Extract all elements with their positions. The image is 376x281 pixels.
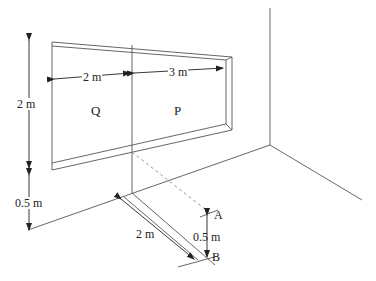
label-region-p: P	[173, 104, 182, 117]
label-floor-distance: 2 m	[135, 228, 155, 240]
label-point-a: A	[213, 209, 224, 221]
diagram-lines	[0, 0, 376, 281]
label-sill-height: 0.5 m	[14, 197, 43, 209]
dim-floor-distance	[121, 199, 194, 259]
window-outer-frame	[52, 42, 232, 170]
label-ab-distance: 0.5 m	[192, 231, 221, 243]
label-width-q: 2 m	[82, 71, 102, 83]
label-window-height: 2 m	[16, 98, 36, 110]
label-width-p: 3 m	[168, 66, 188, 78]
diagram-canvas: 2 m 0.5 m 2 m 3 m Q P 2 m 0.5 m A B	[0, 0, 376, 281]
floor-back-line	[28, 145, 270, 230]
label-region-q: Q	[90, 104, 101, 117]
dashed-projection-line	[132, 152, 210, 213]
label-point-b: B	[211, 251, 221, 263]
floor-right-line	[270, 145, 362, 200]
